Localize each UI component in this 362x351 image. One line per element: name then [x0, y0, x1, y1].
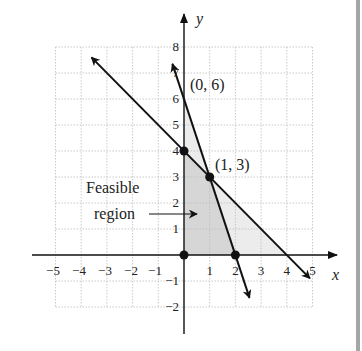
x-tick: 5 — [309, 263, 316, 278]
y-tick: −2 — [165, 299, 179, 314]
x-axis-label: x — [331, 266, 339, 283]
feasible-label-line2: region — [94, 205, 135, 223]
y-tick: 3 — [173, 169, 180, 184]
vertex-0-4 — [180, 147, 189, 156]
y-tick: 5 — [173, 117, 180, 132]
y-tick: 8 — [173, 39, 180, 54]
x-tick: −5 — [46, 263, 60, 278]
y-tick: 1 — [173, 221, 180, 236]
x-tick-labels: −5 −4 −3 −2 −1 1 2 3 4 5 — [46, 263, 316, 278]
y-axis-label: y — [194, 10, 204, 28]
x-tick: 2 — [232, 263, 239, 278]
x-tick: −3 — [98, 263, 112, 278]
x-tick: −1 — [148, 263, 162, 278]
graph-figure: −5 −4 −3 −2 −1 1 2 3 4 5 −2 −1 1 2 3 4 5… — [0, 0, 362, 351]
y-tick: 7 — [173, 65, 180, 80]
x-tick: 1 — [206, 263, 213, 278]
vertex-2-0 — [231, 251, 240, 260]
y-tick: 4 — [173, 143, 180, 158]
right-border-bar — [356, 0, 360, 351]
vertex-0-0 — [180, 251, 189, 260]
y-tick: 2 — [173, 195, 180, 210]
x-tick: 3 — [258, 263, 265, 278]
y-tick: 6 — [173, 91, 180, 106]
point-label-1-3: (1, 3) — [215, 156, 250, 174]
x-tick: 4 — [284, 263, 291, 278]
x-tick: −2 — [124, 263, 138, 278]
feasible-region-plot: −5 −4 −3 −2 −1 1 2 3 4 5 −2 −1 1 2 3 4 5… — [0, 0, 362, 351]
y-tick: −1 — [165, 273, 179, 288]
point-label-0-6: (0, 6) — [190, 76, 225, 94]
x-tick: −4 — [72, 263, 86, 278]
feasible-label-line1: Feasible — [86, 179, 139, 196]
vertex-1-3 — [205, 173, 214, 182]
